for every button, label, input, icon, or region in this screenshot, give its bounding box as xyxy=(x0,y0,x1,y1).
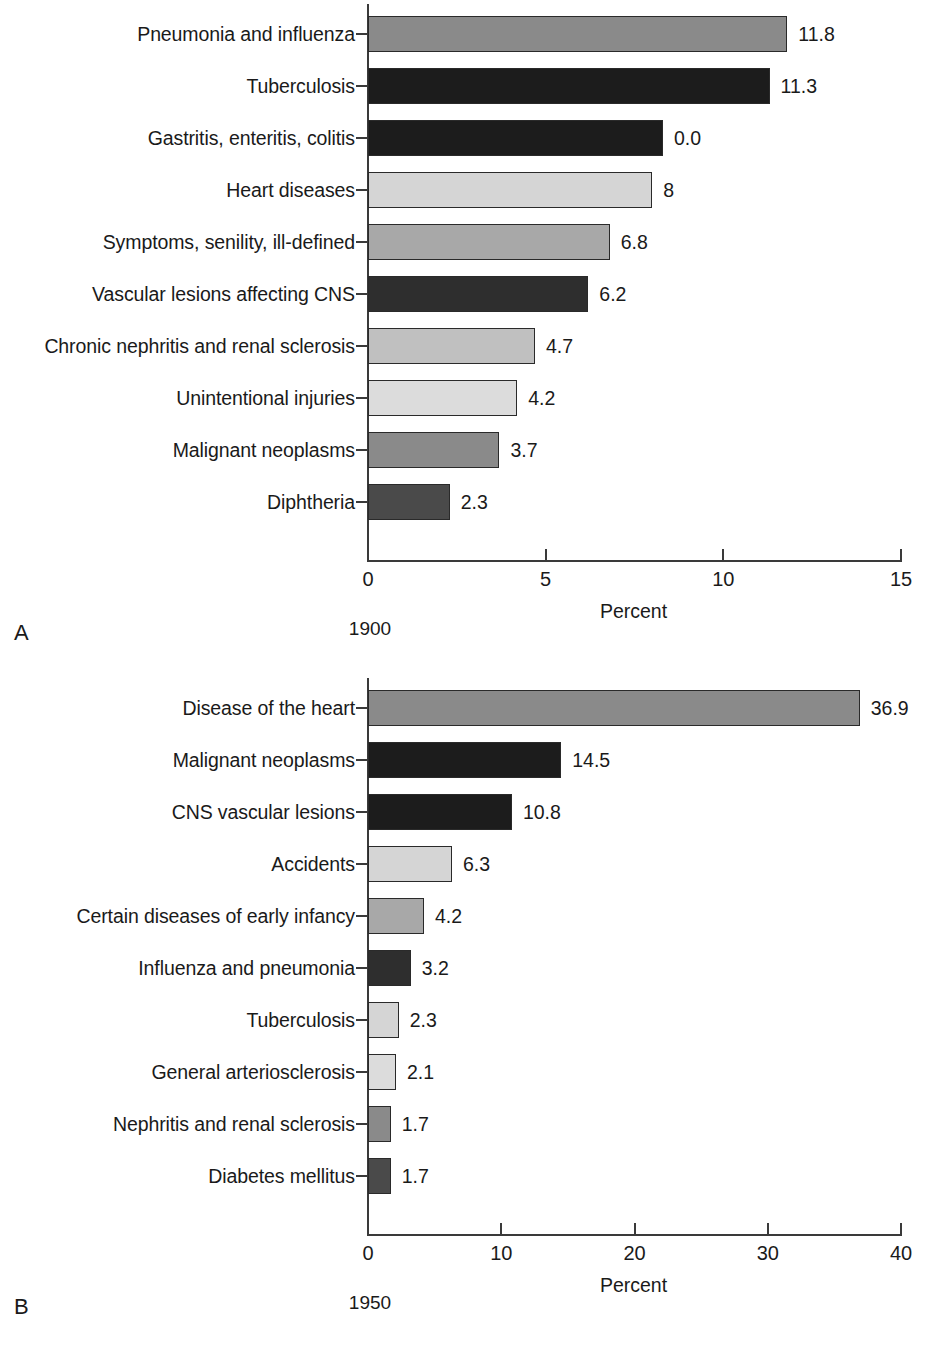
plot-area-a: Pneumonia and influenza11.8Tuberculosis1… xyxy=(0,0,929,560)
value-tick xyxy=(545,549,547,560)
bar xyxy=(368,16,787,52)
category-label: Certain diseases of early infancy xyxy=(76,898,355,934)
bar-row: CNS vascular lesions10.8 xyxy=(0,794,929,830)
bar-value-label: 4.2 xyxy=(528,380,555,416)
category-tick xyxy=(356,293,367,295)
bar-value-label: 6.2 xyxy=(599,276,626,312)
category-label: Heart diseases xyxy=(226,172,355,208)
panel-year-a: 1900 xyxy=(310,618,430,640)
bar xyxy=(368,328,535,364)
category-tick xyxy=(356,811,367,813)
value-tick xyxy=(367,549,369,560)
value-tick-label: 15 xyxy=(871,568,929,591)
bar xyxy=(368,68,770,104)
bar-value-label: 1.7 xyxy=(402,1158,429,1194)
bar-value-label: 4.2 xyxy=(435,898,462,934)
category-tick xyxy=(356,863,367,865)
bar xyxy=(368,1158,391,1194)
category-label: Chronic nephritis and renal sclerosis xyxy=(44,328,355,364)
bar-row: Heart diseases8 xyxy=(0,172,929,208)
value-tick xyxy=(767,1223,769,1234)
bar-row: Pneumonia and influenza11.8 xyxy=(0,16,929,52)
bar xyxy=(368,172,652,208)
bar-value-label: 0.0 xyxy=(674,120,701,156)
bar-value-label: 2.3 xyxy=(410,1002,437,1038)
bar-value-label: 6.3 xyxy=(463,846,490,882)
bar-value-label: 36.9 xyxy=(871,690,909,726)
category-label: Pneumonia and influenza xyxy=(137,16,355,52)
value-tick xyxy=(500,1223,502,1234)
value-tick-label: 5 xyxy=(516,568,576,591)
category-label: Malignant neoplasms xyxy=(173,742,355,778)
bar xyxy=(368,742,561,778)
category-tick xyxy=(356,707,367,709)
bar-row: Unintentional injuries4.2 xyxy=(0,380,929,416)
category-tick xyxy=(356,33,367,35)
value-tick-label: 0 xyxy=(338,1242,398,1265)
bar-row: Nephritis and renal sclerosis1.7 xyxy=(0,1106,929,1142)
bar-value-label: 3.7 xyxy=(510,432,537,468)
category-label: CNS vascular lesions xyxy=(172,794,355,830)
value-tick xyxy=(900,1223,902,1234)
bar-row: Gastritis, enteritis, colitis0.0 xyxy=(0,120,929,156)
category-tick xyxy=(356,241,367,243)
category-tick xyxy=(356,85,367,87)
bar xyxy=(368,380,517,416)
category-label: Influenza and pneumonia xyxy=(138,950,355,986)
category-label: Disease of the heart xyxy=(182,690,355,726)
category-tick xyxy=(356,759,367,761)
category-label: Unintentional injuries xyxy=(176,380,355,416)
value-tick-label: 10 xyxy=(693,568,753,591)
bar xyxy=(368,120,663,156)
x-axis-title-b: Percent xyxy=(534,1274,734,1297)
category-label: Tuberculosis xyxy=(246,1002,355,1038)
bar-row: Diphtheria2.3 xyxy=(0,484,929,520)
bar-row: Tuberculosis2.3 xyxy=(0,1002,929,1038)
category-label: Accidents xyxy=(271,846,355,882)
category-tick xyxy=(356,501,367,503)
bar-value-label: 2.3 xyxy=(461,484,488,520)
category-label: Diabetes mellitus xyxy=(208,1158,355,1194)
value-tick-label: 10 xyxy=(471,1242,531,1265)
bar xyxy=(368,846,452,882)
bar-row: Influenza and pneumonia3.2 xyxy=(0,950,929,986)
bar-value-label: 11.8 xyxy=(798,16,835,52)
category-tick xyxy=(356,1123,367,1125)
category-label: Nephritis and renal sclerosis xyxy=(113,1106,355,1142)
bar-value-label: 10.8 xyxy=(523,794,561,830)
category-tick xyxy=(356,967,367,969)
value-tick-label: 20 xyxy=(605,1242,665,1265)
bar-row: Diabetes mellitus1.7 xyxy=(0,1158,929,1194)
bar-row: Tuberculosis11.3 xyxy=(0,68,929,104)
value-tick xyxy=(722,549,724,560)
category-tick xyxy=(356,137,367,139)
category-tick xyxy=(356,1019,367,1021)
bar xyxy=(368,1054,396,1090)
bar xyxy=(368,1002,399,1038)
bar-value-label: 3.2 xyxy=(422,950,449,986)
value-tick-label: 0 xyxy=(338,568,398,591)
bar-value-label: 11.3 xyxy=(781,68,818,104)
category-tick xyxy=(356,449,367,451)
value-tick-label: 40 xyxy=(871,1242,929,1265)
bar xyxy=(368,432,499,468)
category-tick xyxy=(356,345,367,347)
category-tick xyxy=(356,397,367,399)
value-tick xyxy=(367,1223,369,1234)
category-label: Gastritis, enteritis, colitis xyxy=(148,120,355,156)
bar-row: Malignant neoplasms3.7 xyxy=(0,432,929,468)
bar-value-label: 4.7 xyxy=(546,328,573,364)
value-tick xyxy=(634,1223,636,1234)
bar xyxy=(368,898,424,934)
panel-year-b: 1950 xyxy=(310,1292,430,1314)
bar xyxy=(368,950,411,986)
category-tick xyxy=(356,1071,367,1073)
category-label: Diphtheria xyxy=(267,484,355,520)
category-label: Tuberculosis xyxy=(246,68,355,104)
bar xyxy=(368,690,860,726)
bar-value-label: 8 xyxy=(663,172,674,208)
bar-row: Symptoms, senility, ill-defined6.8 xyxy=(0,224,929,260)
category-label: Malignant neoplasms xyxy=(173,432,355,468)
bar-row: Vascular lesions affecting CNS6.2 xyxy=(0,276,929,312)
panel-letter-b: B xyxy=(14,1294,29,1320)
